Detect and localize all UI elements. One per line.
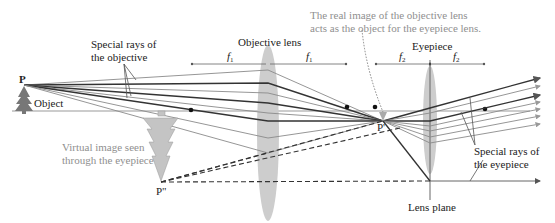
f2-right-label: f2 (453, 50, 460, 66)
special-rays-eyepiece-line1: Special rays of (474, 145, 539, 157)
focal-point-eyepiece-left (373, 105, 378, 110)
focal-point-objective-right (345, 105, 350, 110)
real-image-note-line1: The real image of the objective lens (310, 9, 468, 21)
object-label: Object (34, 97, 63, 109)
special-rays-objective-line1: Special rays of (91, 38, 156, 50)
objective-lens-label: Objective lens (238, 36, 301, 48)
point-p-prime-label: P' (377, 121, 385, 133)
virtual-image-tree-icon (143, 111, 178, 181)
special-rays-eyepiece-line2: the eyepiece (474, 158, 529, 170)
point-p-double-prime-label: P" (156, 185, 167, 197)
f1-left-label: f1 (227, 50, 234, 66)
lens-plane-label: Lens plane (408, 201, 456, 213)
virtual-ray-extensions (161, 121, 430, 182)
virtual-image-line2: through the eyepiece (62, 154, 154, 166)
f2-left-label: f2 (399, 50, 406, 66)
virtual-image-line1: Virtual image seen (62, 141, 144, 153)
focal-point-objective-left (189, 108, 194, 113)
objective-lens (257, 45, 279, 221)
object-tree-icon (15, 86, 33, 114)
eyepiece-label: Eyepiece (412, 40, 452, 52)
real-image-pointer (362, 30, 383, 112)
special-rays-objective-line2: the objective (91, 51, 148, 63)
f1-right-label: f1 (306, 50, 313, 66)
real-image-note-line2: acts as the object for the eyepiece lens… (310, 22, 481, 34)
point-p-label: P (19, 73, 26, 85)
